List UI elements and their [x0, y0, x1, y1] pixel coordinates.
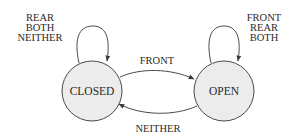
open-to-closed-label: NEITHER	[136, 123, 181, 134]
closed-to-open-label: FRONT	[140, 55, 175, 66]
closed-to-open-arrow	[120, 70, 194, 79]
open-to-closed-arrow	[119, 104, 197, 113]
state-closed-label: CLOSED	[70, 85, 115, 97]
state-open-label: OPEN	[209, 85, 240, 97]
state-diagram: CLOSED OPEN REAR BOTH NEITHER FRONT REAR…	[0, 0, 296, 137]
closed-self-loop-labels: REAR BOTH NEITHER	[18, 12, 63, 43]
closed-self-loop-arrow	[77, 26, 108, 63]
state-open: OPEN	[194, 61, 254, 121]
open-self-loop-arrow	[209, 26, 239, 63]
transition-label: NEITHER	[18, 32, 63, 43]
state-closed: CLOSED	[62, 61, 122, 121]
open-self-loop-labels: FRONT REAR BOTH	[247, 12, 282, 43]
transition-label: BOTH	[250, 32, 279, 43]
